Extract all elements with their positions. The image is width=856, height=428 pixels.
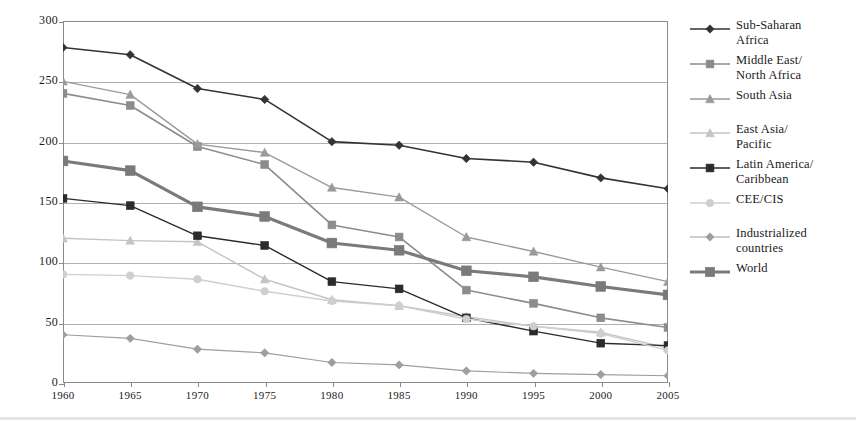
data-point-diamond bbox=[63, 331, 67, 339]
x-axis-tick-label: 1975 bbox=[242, 389, 288, 401]
data-point-circle bbox=[261, 287, 269, 295]
x-axis-tick-label: 1990 bbox=[443, 389, 489, 401]
data-point-triangle bbox=[260, 275, 269, 283]
legend-label: Latin America/ Caribbean bbox=[732, 157, 813, 186]
x-axis-tick-label: 1985 bbox=[376, 389, 422, 401]
data-point-square bbox=[596, 282, 606, 292]
legend-item[interactable]: Sub-Saharan Africa bbox=[688, 18, 856, 47]
data-point-square bbox=[260, 212, 270, 222]
x-axis-tick-label: 2000 bbox=[578, 389, 624, 401]
data-point-circle bbox=[706, 199, 714, 207]
series-line bbox=[63, 77, 668, 285]
data-point-square bbox=[395, 233, 403, 241]
data-point-square bbox=[597, 314, 605, 322]
data-point-circle bbox=[126, 272, 134, 280]
data-point-circle bbox=[194, 275, 202, 283]
legend-marker-icon bbox=[688, 194, 732, 212]
chart-legend: Sub-Saharan AfricaMiddle East/ North Afr… bbox=[688, 18, 856, 295]
data-point-square-filled bbox=[328, 278, 336, 286]
y-axis-tick-label: 300 bbox=[24, 13, 58, 28]
data-point-diamond bbox=[126, 51, 134, 59]
y-axis-tick-label: 250 bbox=[24, 73, 58, 88]
data-point-square bbox=[327, 238, 337, 248]
data-point-diamond bbox=[328, 358, 336, 366]
data-point-square bbox=[261, 161, 269, 169]
data-point-square bbox=[664, 324, 668, 332]
data-point-square bbox=[461, 266, 471, 276]
plot-area bbox=[63, 21, 668, 383]
legend-label: East Asia/ Pacific bbox=[732, 122, 788, 151]
legend-label: CEE/CIS bbox=[732, 192, 784, 207]
data-point-diamond bbox=[664, 372, 668, 380]
data-point-diamond bbox=[395, 141, 403, 149]
legend-marker-icon bbox=[688, 228, 732, 246]
data-point-square-filled bbox=[706, 164, 714, 172]
data-point-square-filled bbox=[395, 285, 403, 293]
data-point-circle bbox=[395, 302, 403, 310]
series-polyline bbox=[63, 161, 668, 295]
data-point-square-filled bbox=[63, 194, 67, 202]
legend-marker-icon bbox=[688, 90, 732, 108]
x-axis-labels: 1960196519701975198019851990199520002005 bbox=[63, 383, 668, 407]
legend-item[interactable]: World bbox=[688, 261, 856, 289]
data-point-diamond bbox=[529, 369, 537, 377]
series-line bbox=[63, 156, 668, 300]
data-point-diamond bbox=[126, 334, 134, 342]
data-point-square bbox=[125, 166, 135, 176]
y-axis-tick-label: 100 bbox=[24, 254, 58, 269]
y-axis-tick-label: 150 bbox=[24, 194, 58, 209]
data-point-square-filled bbox=[126, 202, 134, 210]
data-point-diamond bbox=[260, 349, 268, 357]
legend-item[interactable]: South Asia bbox=[688, 88, 856, 116]
series-line bbox=[63, 194, 668, 349]
data-point-diamond bbox=[193, 345, 201, 353]
data-point-circle bbox=[530, 322, 538, 330]
legend-label: World bbox=[732, 261, 768, 276]
x-axis-tick-label: 1960 bbox=[40, 389, 86, 401]
data-point-square bbox=[462, 286, 470, 294]
x-axis-tick-label: 1995 bbox=[511, 389, 557, 401]
legend-label: Middle East/ North Africa bbox=[732, 53, 802, 82]
data-point-diamond bbox=[664, 185, 668, 193]
legend-marker-icon bbox=[688, 20, 732, 38]
data-point-diamond bbox=[328, 137, 336, 145]
data-point-triangle bbox=[327, 183, 336, 191]
data-point-diamond bbox=[529, 158, 537, 166]
data-point-diamond bbox=[706, 233, 714, 241]
data-point-square bbox=[706, 60, 714, 68]
data-point-square-filled bbox=[261, 242, 269, 250]
x-axis-tick bbox=[669, 382, 670, 387]
data-point-square bbox=[63, 156, 68, 166]
chart-lines bbox=[63, 21, 668, 383]
series-line bbox=[63, 90, 668, 332]
series-line bbox=[63, 234, 668, 352]
y-axis-tick-label: 200 bbox=[24, 134, 58, 149]
series-line bbox=[63, 43, 668, 193]
legend-item[interactable]: East Asia/ Pacific bbox=[688, 122, 856, 151]
legend-item[interactable]: Industrialized countries bbox=[688, 226, 856, 255]
x-axis-tick-label: 1965 bbox=[107, 389, 153, 401]
legend-item[interactable]: CEE/CIS bbox=[688, 192, 856, 220]
legend-label: South Asia bbox=[732, 88, 792, 103]
y-axis-tick-label: 50 bbox=[24, 315, 58, 330]
data-point-triangle bbox=[462, 233, 471, 241]
series-polyline bbox=[63, 48, 668, 189]
data-point-diamond bbox=[462, 367, 470, 375]
data-point-diamond bbox=[395, 361, 403, 369]
legend-item[interactable]: Latin America/ Caribbean bbox=[688, 157, 856, 186]
legend-label: Sub-Saharan Africa bbox=[732, 18, 802, 47]
data-point-square bbox=[63, 90, 67, 98]
x-axis-tick-label: 1980 bbox=[309, 389, 355, 401]
y-axis-tick-label: 0 bbox=[24, 375, 58, 390]
data-point-square bbox=[663, 290, 668, 300]
data-point-circle bbox=[63, 271, 67, 279]
legend-label: Industrialized countries bbox=[732, 226, 807, 255]
data-point-square bbox=[394, 245, 404, 255]
data-point-square bbox=[328, 221, 336, 229]
data-point-square bbox=[193, 202, 203, 212]
data-point-diamond bbox=[597, 174, 605, 182]
data-point-square bbox=[530, 299, 538, 307]
data-point-square bbox=[126, 102, 134, 110]
data-point-square bbox=[705, 267, 714, 276]
legend-item[interactable]: Middle East/ North Africa bbox=[688, 53, 856, 82]
